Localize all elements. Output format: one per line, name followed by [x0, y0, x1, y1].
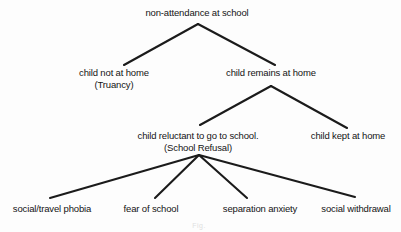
node-label: fear of school: [124, 203, 179, 214]
node-social-travel-phobia: social/travel phobia: [13, 203, 91, 215]
node-separation-anxiety: separation anxiety: [223, 203, 297, 215]
caption-artifact: Fig.: [192, 222, 206, 229]
node-fear-of-school: fear of school: [124, 203, 179, 215]
node-label: child remains at home: [226, 67, 316, 78]
node-label: non-attendance at school: [145, 7, 248, 18]
node-not-at-home: child not at home(Truancy): [79, 67, 149, 91]
edge-layer: [0, 0, 401, 232]
edge-root-to-remains-at-home: [198, 24, 275, 65]
edge-root-to-not-at-home: [124, 24, 198, 65]
node-label: child reluctant to go to school.: [138, 130, 259, 141]
node-reluctant: child reluctant to go to school.(School …: [138, 130, 259, 154]
node-label: child not at home: [79, 67, 149, 78]
node-root: non-attendance at school: [145, 7, 248, 19]
node-label: child kept at home: [311, 130, 385, 141]
edge-remains-at-home-to-reluctant: [200, 86, 271, 125]
node-label: separation anxiety: [223, 203, 297, 214]
node-remains-at-home: child remains at home: [226, 67, 316, 79]
node-label: social withdrawal: [321, 203, 390, 214]
node-sublabel: (School Refusal): [138, 142, 259, 154]
node-label: social/travel phobia: [13, 203, 91, 214]
tree-diagram: non-attendance at schoolchild not at hom…: [0, 0, 401, 232]
node-sublabel: (Truancy): [79, 79, 149, 91]
edge-remains-at-home-to-kept-at-home: [271, 86, 347, 128]
node-social-withdrawal: social withdrawal: [321, 203, 390, 215]
node-kept-at-home: child kept at home: [311, 130, 385, 142]
